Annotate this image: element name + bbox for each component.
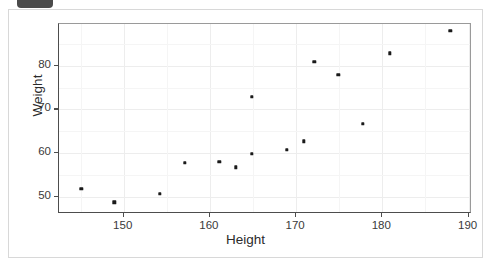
data-point xyxy=(218,160,221,163)
data-point xyxy=(361,122,364,125)
y-axis-tick xyxy=(54,152,58,153)
gridline-horizontal-minor xyxy=(59,44,470,45)
gridline-horizontal xyxy=(59,153,470,154)
gridline-vertical-minor xyxy=(425,24,426,212)
data-point xyxy=(312,60,315,63)
x-axis-tick xyxy=(381,213,382,217)
data-point xyxy=(183,161,186,164)
y-axis-tick xyxy=(54,108,58,109)
gridline-vertical xyxy=(210,24,211,212)
y-axis-title: Weight xyxy=(30,54,45,138)
data-point xyxy=(234,166,237,169)
x-axis-tick-label: 150 xyxy=(103,219,143,231)
gridline-horizontal xyxy=(59,109,470,110)
gridline-vertical xyxy=(296,24,297,212)
cut-off-toolbar-badge[interactable] xyxy=(17,0,53,8)
data-point xyxy=(449,29,452,32)
x-axis-tick-label: 180 xyxy=(361,219,401,231)
x-axis-tick xyxy=(468,213,469,217)
plot-panel xyxy=(58,23,471,213)
gridline-vertical xyxy=(469,24,470,212)
gridline-vertical-minor xyxy=(167,24,168,212)
y-axis-tick-label: 50 xyxy=(21,189,51,201)
data-point xyxy=(388,51,391,54)
data-point xyxy=(302,139,305,142)
gridline-vertical-minor xyxy=(339,24,340,212)
data-point xyxy=(80,187,83,190)
gridline-vertical xyxy=(382,24,383,212)
y-axis-tick xyxy=(54,65,58,66)
data-point xyxy=(285,148,288,151)
scatter-plot: 50607080150160170180190 Weight Height xyxy=(9,10,482,257)
gridline-vertical xyxy=(124,24,125,212)
x-axis-title: Height xyxy=(9,232,482,247)
gridline-horizontal-minor xyxy=(59,175,470,176)
gridline-vertical-minor xyxy=(253,24,254,212)
data-point xyxy=(112,200,115,203)
gridline-horizontal xyxy=(59,66,470,67)
gridline-horizontal-minor xyxy=(59,131,470,132)
x-axis-tick xyxy=(123,213,124,217)
x-axis-tick-label: 170 xyxy=(275,219,315,231)
x-axis-tick xyxy=(295,213,296,217)
x-axis-tick-label: 190 xyxy=(448,219,488,231)
scatter-plot-card: 50607080150160170180190 Weight Height xyxy=(8,9,483,258)
gridline-horizontal xyxy=(59,197,470,198)
gridline-vertical-minor xyxy=(81,24,82,212)
y-axis-tick xyxy=(54,196,58,197)
x-axis-tick xyxy=(209,213,210,217)
gridline-horizontal-minor xyxy=(59,88,470,89)
data-point xyxy=(158,192,161,195)
x-axis-tick-label: 160 xyxy=(189,219,229,231)
y-axis-tick-label: 60 xyxy=(21,145,51,157)
